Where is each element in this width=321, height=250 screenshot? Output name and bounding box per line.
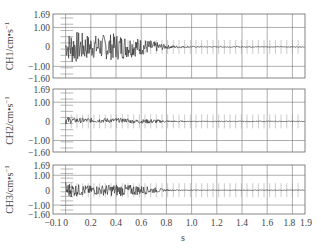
- y-tick-label: −1.60: [28, 148, 50, 158]
- x-tick-label: −0.1: [44, 218, 61, 228]
- y-tick-label: 1.00: [33, 23, 50, 33]
- signal-trace-ch1: [66, 32, 305, 62]
- x-tick-label: 0.4: [110, 218, 122, 228]
- x-tick-label: 1.2: [211, 218, 223, 228]
- y-tick-label: 0: [45, 117, 50, 127]
- panel-ch3: 1.691.000−1.00−1.60CH3/cm•s−1: [3, 161, 305, 220]
- signal-trace-ch3: [66, 182, 305, 197]
- x-tick-label: 1.4: [236, 218, 248, 228]
- x-tick-label: 1.6: [261, 218, 273, 228]
- y-tick-label: 1.00: [33, 98, 50, 108]
- signal-trace-ch2: [66, 117, 305, 124]
- panel-ch1: 1.691.000−1.00−1.60CH1/cm•s−1: [3, 10, 305, 84]
- y-tick-label: 1.69: [33, 10, 50, 20]
- x-tick-label: 1.0: [186, 218, 198, 228]
- x-tick-label: 0.8: [160, 218, 172, 228]
- y-tick-label: 0: [45, 42, 50, 52]
- y-tick-label: −1.00: [28, 62, 50, 72]
- x-tick-label: 1.8: [283, 218, 295, 228]
- panel-ch2: 1.691.000−1.00−1.60CH2/cm•s−1: [3, 85, 305, 158]
- y-tick-label: 0: [45, 186, 50, 196]
- y-axis-label-ch1: CH1/cm•s−1: [3, 21, 15, 70]
- y-tick-label: −1.60: [28, 74, 50, 84]
- y-axis-label-ch3: CH3/cm•s−1: [3, 165, 15, 214]
- y-axis-label-ch2: CH2/cm•s−1: [3, 96, 15, 145]
- x-tick-label: 1.9: [300, 218, 312, 228]
- x-axis-label: s: [181, 232, 185, 243]
- x-tick-label: 0.6: [135, 218, 147, 228]
- y-tick-label: 1.00: [33, 171, 50, 181]
- x-tick-label: 0.2: [85, 218, 97, 228]
- y-tick-label: −1.00: [28, 136, 50, 146]
- y-tick-label: 1.69: [33, 161, 50, 171]
- x-axis: −0.100.20.40.60.81.01.21.41.61.81.9: [44, 218, 312, 228]
- seismograph-chart: 1.691.000−1.00−1.60CH1/cm•s−11.691.000−1…: [0, 0, 321, 250]
- x-tick-label: 0: [63, 218, 68, 228]
- y-tick-label: 1.69: [33, 85, 50, 95]
